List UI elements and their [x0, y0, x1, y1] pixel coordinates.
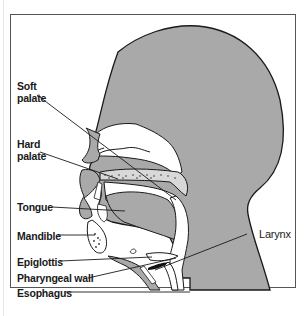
mandible-bone: [87, 220, 106, 253]
nose: [82, 128, 100, 163]
label-soft-palate: Soft palate: [17, 80, 46, 104]
hyoid: [130, 249, 136, 254]
label-pharyngeal-wall: Pharyngeal wall: [17, 272, 93, 284]
label-esophagus: Esophagus: [17, 287, 72, 299]
throat-front: [108, 256, 160, 290]
label-larynx: Larynx: [259, 228, 291, 240]
lower-teeth: [97, 204, 107, 222]
label-epiglottis: Epiglottis: [17, 256, 63, 268]
leader-pharyngeal-wall: [88, 258, 176, 278]
tongue: [106, 192, 178, 240]
label-tongue: Tongue: [17, 201, 53, 213]
label-mandible: Mandible: [17, 230, 61, 242]
leader-epiglottis: [60, 257, 152, 261]
label-hard-palate: Hard palate: [17, 138, 46, 162]
